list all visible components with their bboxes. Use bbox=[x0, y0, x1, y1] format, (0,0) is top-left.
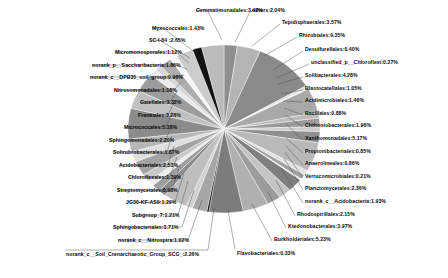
leader-line bbox=[264, 37, 297, 56]
pie-slice-label: Solirubrobacterales:1.87% bbox=[113, 150, 179, 155]
pie-slice-label: Acidobacteriales:2.53% bbox=[119, 163, 178, 168]
pie-slice-label: Gaiellales:3.32% bbox=[140, 100, 181, 105]
pie-slice-label: JG30-KF-AS9:1.29% bbox=[126, 200, 176, 205]
pie-slice-label: Chloroflexales:1.39% bbox=[128, 175, 181, 180]
pie-slice-label: norank_c__Acidobacteria:1.93% bbox=[305, 199, 386, 204]
pie-slice-label: Flavobacteriales:0.33% bbox=[237, 251, 295, 256]
pie-slice-label: Burkholderiales:5.23% bbox=[274, 237, 331, 242]
pie-slice-label: Sphingomonadales:2.20% bbox=[109, 138, 174, 143]
pie-slice-label: norank_c__Nitrospira:1.02% bbox=[118, 238, 189, 243]
pie-slice-label: Nitrosomonadales:1.18% bbox=[114, 88, 177, 93]
pie-slice-label: Rhizobiales:9.35% bbox=[299, 33, 345, 38]
pie-slice-label: Desulfurellales:0.40% bbox=[305, 47, 359, 52]
pie-slice-label: unclassified_p__Chloroflexi:0.27% bbox=[311, 60, 398, 65]
pie-slice-label: Tepidisphaerales:3.57% bbox=[282, 20, 342, 25]
pie-slice-label: Myxococcales:1.43% bbox=[152, 26, 205, 31]
pie-slice-label: Micrococcales:5.38% bbox=[124, 125, 177, 130]
pie-slice-label: Planctomycetales:2.36% bbox=[305, 186, 366, 191]
pie-slice-label: norank_p__Saccharibacteria:1.86% bbox=[92, 63, 181, 68]
pie-slice-label: norank_c__DPB35_soil_group:0.96% bbox=[90, 75, 183, 80]
pie-slice-label: Anaerolineales:0.86% bbox=[305, 161, 359, 166]
leader-line bbox=[252, 24, 280, 46]
leader-line bbox=[252, 204, 272, 241]
pie-slice-label: Sphingobacteriales:3.71% bbox=[113, 225, 179, 230]
leader-line bbox=[235, 12, 250, 42]
pie-slice-label: Propionibacteriales:0.85% bbox=[305, 149, 371, 154]
pie-slice-label: SC-I-84 :2.65% bbox=[149, 38, 185, 43]
pie-slice-label: Acidimicrobiales:1.46% bbox=[305, 98, 364, 103]
leader-line bbox=[228, 210, 235, 249]
pie-slice-label: Rhodospirillales:2.15% bbox=[297, 212, 355, 217]
pie-slice-label: Verrucomicrobiales:0.21% bbox=[305, 174, 371, 179]
pie-slice-label: others:2.04% bbox=[252, 8, 285, 13]
pie-slice-label: Subgroup_7:1.21% bbox=[132, 213, 180, 218]
pie-slice-label: Chthoniobacterales:1.96% bbox=[305, 123, 371, 128]
pie-slice-label: Xanthomonadales:5.17% bbox=[305, 136, 367, 141]
pie-slice-label: Blastocatellales:1.05% bbox=[305, 86, 362, 91]
pie-slice-label: norank_c__Soil_Crenarchaeotic_Group_SCG_… bbox=[66, 252, 199, 257]
pie-chart-figure: Gemmatimonadales:3.42%Myxococcales:1.43%… bbox=[0, 0, 448, 278]
pie-slice-label: Solibacterales:4.28% bbox=[305, 73, 358, 78]
pie-slice-label: Ktedonobacterales:3.97% bbox=[288, 224, 352, 229]
pie-slice-label: Streptomycetales:0.98% bbox=[117, 188, 178, 193]
pie-chart-canvas bbox=[0, 0, 448, 278]
pie-slice-label: Bacillales:0.88% bbox=[305, 111, 346, 116]
pie-slice-label: Frankiales:3.28% bbox=[138, 113, 181, 118]
pie-slice-label: Micromonosporales:1.12% bbox=[115, 50, 182, 55]
